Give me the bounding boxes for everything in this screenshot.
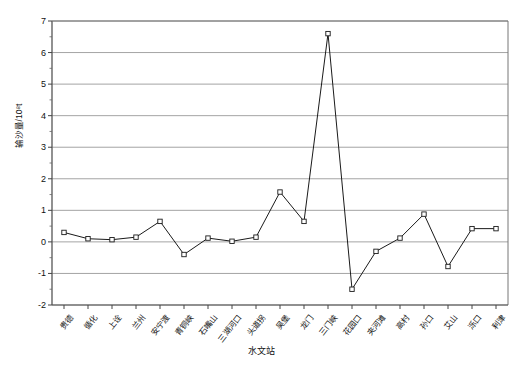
plot-area (0, 0, 523, 373)
gridlines (52, 21, 508, 305)
data-series-line (64, 34, 496, 290)
chart-container: 输沙量/10⁸t -2-101234567 贵德循化上诠兰州安宁渡青铜峡石嘴山三… (0, 0, 523, 373)
plot-frame (52, 21, 508, 305)
data-series-markers (62, 31, 498, 291)
x-axis-title: 水文站 (0, 344, 523, 357)
x-axis-ticks (64, 305, 496, 309)
